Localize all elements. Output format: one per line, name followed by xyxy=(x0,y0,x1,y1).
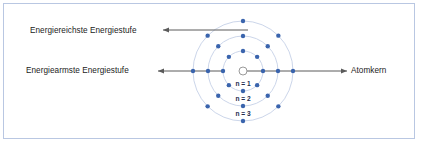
arrow-head xyxy=(163,27,169,32)
electron-n1-7 xyxy=(241,89,245,93)
shell-label-n1: n = 1 xyxy=(223,80,263,87)
arrow-head xyxy=(341,68,347,73)
electron-n3-6 xyxy=(205,104,209,108)
atom-diagram-figure: Energiereichste Energiestufe Energiearms… xyxy=(0,0,421,145)
arrow-head xyxy=(158,68,164,73)
electron-n3-3 xyxy=(241,19,245,23)
label-nucleus: Atomkern xyxy=(351,66,386,75)
electron-n3-7 xyxy=(241,119,245,123)
shell-label-n2: n = 2 xyxy=(223,95,263,102)
electron-n1-5 xyxy=(221,69,225,73)
electron-n3-5 xyxy=(191,69,195,73)
nucleus-group xyxy=(239,67,247,75)
annotation-arrow-2 xyxy=(158,68,223,73)
electron-n1-4 xyxy=(227,55,231,59)
electron-n3-4 xyxy=(205,33,209,37)
electron-n2-6 xyxy=(216,94,220,98)
shell-label-n3: n = 3 xyxy=(223,110,263,117)
electron-n3-8 xyxy=(276,104,280,108)
electron-n2-7 xyxy=(241,104,245,108)
electron-n1-3 xyxy=(241,49,245,53)
nucleus-circle xyxy=(239,67,247,75)
electron-n2-8 xyxy=(266,94,270,98)
annotation-arrow-1 xyxy=(163,27,248,32)
electron-n3-1 xyxy=(291,69,295,73)
electron-n1-2 xyxy=(255,55,259,59)
label-lowest-energy-level: Energiearmste Energiestufe xyxy=(26,66,129,75)
electron-n2-1 xyxy=(276,69,280,73)
electron-n2-2 xyxy=(266,44,270,48)
label-highest-energy-level: Energiereichste Energiestufe xyxy=(30,26,137,35)
electron-n2-4 xyxy=(216,44,220,48)
annotation-arrows-group xyxy=(158,27,347,73)
electron-n2-5 xyxy=(206,69,210,73)
electron-n2-3 xyxy=(241,34,245,38)
electron-n1-1 xyxy=(261,69,265,73)
electron-n3-2 xyxy=(276,33,280,37)
